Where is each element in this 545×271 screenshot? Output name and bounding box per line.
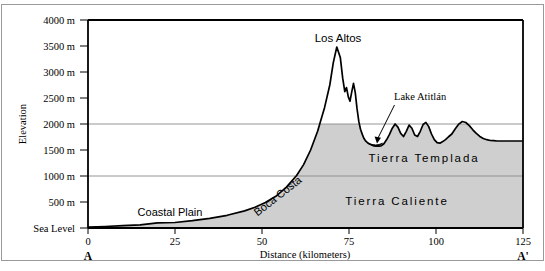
x-axis-title: Distance (kilometers) [260,249,351,261]
x-tick-label-125: 125 [515,236,531,247]
zone-label-tierra-caliente: Tierra Caliente [345,195,449,207]
zone-label-tierra-templada: Tierra Templada [369,152,480,164]
region-label-coastal-plain: Coastal Plain [138,206,203,218]
y-tick-label-0: Sea Level [33,223,75,234]
y-tick-label-3500: 3500 m [43,41,75,52]
x-tick-label-75: 75 [344,236,355,247]
peak-label-los-altos: Los Altos [315,32,362,44]
y-tick-label-3000: 3000 m [43,67,75,78]
elevation-profile-chart: Sea Level 500 m 1000 m 1500 m 2000 m 250… [0,0,545,271]
x-tick-label-25: 25 [170,236,181,247]
x-tick-label-50: 50 [257,236,268,247]
annotation-label-lake-atitlan: Lake Atitlán [394,91,447,102]
y-tick-label-1500: 1500 m [43,145,75,156]
x-tick-label-0: 0 [85,236,90,247]
x-axis-tick-labels: 0 25 50 75 100 125 [85,236,531,247]
y-tick-label-4000: 4000 m [43,15,75,26]
x-tick-label-100: 100 [428,236,444,247]
y-tick-label-1000: 1000 m [43,171,75,182]
y-axis-title: Elevation [17,103,28,144]
y-tick-label-2000: 2000 m [43,119,75,130]
y-axis-tick-labels: Sea Level 500 m 1000 m 1500 m 2000 m 250… [33,15,75,234]
elevation-profile-figure: Sea Level 500 m 1000 m 1500 m 2000 m 250… [0,0,545,271]
y-tick-label-2500: 2500 m [43,93,75,104]
endpoint-label-start: A [84,250,93,262]
endpoint-label-end: A' [517,250,529,262]
y-axis-ticks [80,20,88,228]
y-tick-label-500: 500 m [48,197,75,208]
